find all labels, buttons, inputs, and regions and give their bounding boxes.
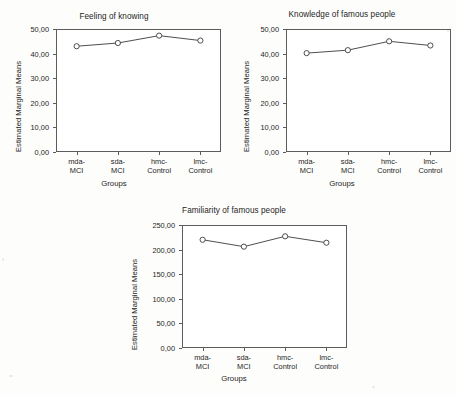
scan-speckle [372, 386, 375, 388]
data-point-marker [241, 244, 246, 249]
data-point-marker [200, 237, 205, 242]
data-point-marker [283, 234, 288, 239]
figure-canvas: Feeling of knowing Estimated Marginal Me… [0, 0, 456, 395]
chart-panel-knowledge-of-famous-people: Knowledge of famous people Estimated Mar… [228, 4, 456, 194]
data-point-marker [74, 44, 79, 49]
scan-speckle [9, 375, 13, 377]
data-series [114, 202, 354, 395]
x-axis-label: Groups [228, 179, 456, 188]
data-series [0, 6, 228, 196]
data-point-marker [115, 40, 120, 45]
data-point-marker [157, 33, 162, 38]
chart-panel-feeling-of-knowing: Feeling of knowing Estimated Marginal Me… [0, 6, 228, 196]
series-line [77, 36, 201, 47]
data-point-marker [387, 39, 392, 44]
series-line [203, 236, 327, 246]
scan-speckle [447, 30, 449, 32]
scan-speckle [2, 258, 4, 261]
series-line [307, 41, 431, 53]
data-point-marker [324, 240, 329, 245]
x-axis-label: Groups [114, 374, 354, 383]
data-series [228, 4, 456, 194]
x-axis-label: Groups [0, 179, 228, 188]
data-point-marker [304, 51, 309, 56]
data-point-marker [198, 38, 203, 43]
chart-panel-familiarity-of-famous-people: Familiarity of famous people Estimated M… [114, 202, 354, 395]
data-point-marker [428, 43, 433, 48]
data-point-marker [345, 48, 350, 53]
